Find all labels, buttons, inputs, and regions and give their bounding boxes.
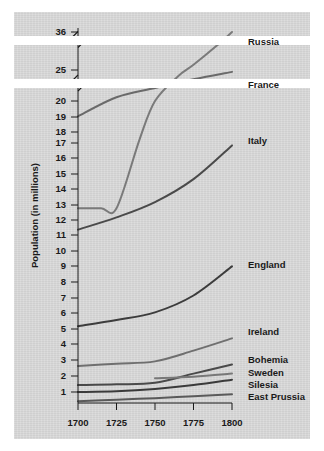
y-tick-label-4: 4 [40, 339, 66, 349]
y-tick-label-20: 20 [40, 96, 66, 106]
series-line-russia [78, 32, 232, 213]
y-tick-label-8: 8 [40, 277, 66, 287]
series-label-bohemia: Bohemia [248, 355, 288, 365]
y-tick-label-25: 25 [40, 65, 66, 75]
series-line-england [78, 266, 232, 326]
y-tick-label-10: 10 [40, 246, 66, 256]
series-line-italy [78, 145, 232, 229]
chart-figure: 12345678910111213141516171819202536 1700… [0, 0, 324, 451]
y-tick-label-15: 15 [40, 169, 66, 179]
series-label-sweden: Sweden [248, 368, 284, 378]
y-tick-label-14: 14 [40, 184, 66, 194]
series-line-ireland [78, 338, 232, 366]
series-line-silesia [78, 380, 232, 392]
series-label-east-prussia: East Prussia [248, 392, 305, 402]
series-label-england: England [248, 260, 285, 270]
series-line-east-prussia [78, 394, 232, 401]
series-label-silesia: Silesia [248, 380, 278, 390]
y-tick-label-5: 5 [40, 324, 66, 334]
x-tick-label-1750: 1750 [138, 418, 172, 428]
series-label-ireland: Ireland [248, 327, 279, 337]
y-tick-label-9: 9 [40, 261, 66, 271]
x-tick-label-1800: 1800 [215, 418, 249, 428]
y-tick-label-6: 6 [40, 308, 66, 318]
y-tick-label-19: 19 [40, 112, 66, 122]
y-tick-label-13: 13 [40, 200, 66, 210]
series-label-france: France [248, 80, 279, 90]
y-axis-title: Population (in millions) [29, 141, 40, 291]
series-label-russia: Russia [248, 37, 279, 47]
y-tick-label-16: 16 [40, 153, 66, 163]
y-tick-label-3: 3 [40, 355, 66, 365]
y-tick-label-18: 18 [40, 127, 66, 137]
series-label-italy: Italy [248, 136, 267, 146]
y-tick-label-1: 1 [40, 387, 66, 397]
x-tick-label-1700: 1700 [61, 418, 95, 428]
y-tick-label-11: 11 [40, 230, 66, 240]
y-tick-label-17: 17 [40, 138, 66, 148]
y-tick-label-12: 12 [40, 215, 66, 225]
y-tick-label-7: 7 [40, 293, 66, 303]
x-tick-label-1775: 1775 [177, 418, 211, 428]
y-tick-label-2: 2 [40, 371, 66, 381]
x-tick-label-1725: 1725 [100, 418, 134, 428]
